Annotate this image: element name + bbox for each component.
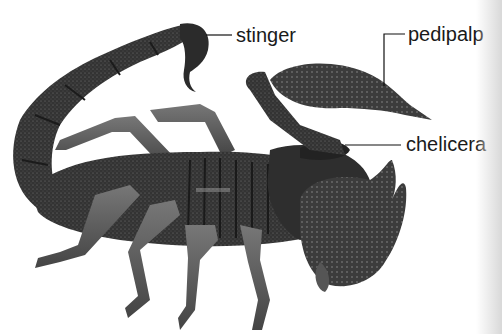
pedipalp-upper [246,64,432,155]
label-stinger: stinger [236,25,296,45]
scorpion-illustration [0,0,502,334]
scorpion-diagram: stinger pedipalp chelicera [0,0,502,334]
page-edge-shadow [476,0,502,334]
pedipalp-leader-line [384,34,405,86]
label-chelicera: chelicera [406,134,486,154]
label-pedipalp: pedipalp [408,24,484,44]
